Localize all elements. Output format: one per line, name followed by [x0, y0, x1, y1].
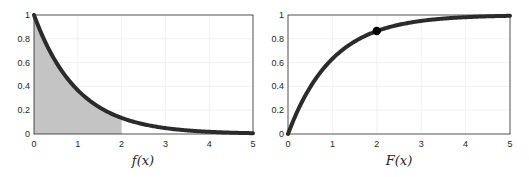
x-tick: 4	[207, 139, 212, 149]
axes-box	[288, 15, 510, 134]
y-tick: 0.4	[17, 81, 30, 91]
cdf-panel: 0 0.2 0.4 0.6 0.8 1 0 1 2 3 4 5 F(x)	[271, 10, 512, 168]
point-marker	[373, 27, 381, 35]
y-tick: 1	[279, 10, 284, 20]
y-tick: 0	[25, 129, 30, 139]
x-tick: 4	[463, 139, 468, 149]
y-tick: 0.8	[271, 34, 284, 44]
y-tick: 0.6	[17, 58, 30, 68]
x-tick: 2	[119, 139, 124, 149]
x-axis-label: F(x)	[385, 153, 413, 168]
figure: 0 0.2 0.4 0.6 0.8 1 0 1 2 3 4 5 f(x) 0	[0, 0, 529, 177]
y-tick: 0.6	[271, 58, 284, 68]
x-axis-label: f(x)	[131, 153, 154, 168]
x-tick: 0	[285, 139, 290, 149]
y-tick: 0.2	[17, 105, 30, 115]
y-tick-labels: 0 0.2 0.4 0.6 0.8 1	[271, 10, 284, 139]
y-tick: 0.4	[271, 81, 284, 91]
grid	[288, 15, 510, 134]
x-tick: 1	[330, 139, 335, 149]
x-tick: 0	[31, 139, 36, 149]
x-tick: 1	[75, 139, 80, 149]
x-tick: 2	[374, 139, 379, 149]
y-tick: 0.2	[271, 105, 284, 115]
pdf-panel: 0 0.2 0.4 0.6 0.8 1 0 1 2 3 4 5 f(x)	[17, 10, 255, 168]
cdf-curve	[288, 16, 510, 134]
y-tick: 0.8	[17, 34, 30, 44]
y-tick: 1	[25, 10, 30, 20]
x-tick: 5	[250, 139, 255, 149]
y-tick-labels: 0 0.2 0.4 0.6 0.8 1	[17, 10, 30, 139]
y-tick: 0	[279, 129, 284, 139]
x-tick-labels: 0 1 2 3 4 5	[31, 139, 255, 149]
x-tick: 3	[163, 139, 168, 149]
x-tick: 3	[419, 139, 424, 149]
x-tick: 5	[507, 139, 512, 149]
x-tick-labels: 0 1 2 3 4 5	[285, 139, 512, 149]
